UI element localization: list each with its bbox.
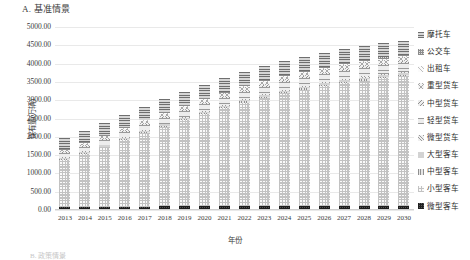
bar-segment bbox=[119, 140, 130, 206]
legend-item[interactable]: 小型客车 bbox=[418, 181, 470, 198]
bar-segment bbox=[378, 78, 389, 205]
legend-item[interactable]: 摩托车 bbox=[418, 26, 470, 43]
stacked-bar[interactable] bbox=[159, 99, 170, 209]
bar-column[interactable]: 2017 bbox=[135, 27, 155, 209]
x-axis-tick-label: 2029 bbox=[377, 214, 391, 222]
bar-column[interactable]: 2022 bbox=[234, 27, 254, 209]
y-axis-tick-label: 1500.00 bbox=[27, 151, 51, 159]
legend-item[interactable]: 公交车 bbox=[418, 43, 470, 60]
bar-column[interactable]: 2025 bbox=[294, 27, 314, 209]
stacked-bar[interactable] bbox=[99, 123, 110, 209]
bar-segment bbox=[279, 206, 290, 209]
legend-label: 中型货车 bbox=[427, 100, 459, 108]
bar-column[interactable]: 2026 bbox=[314, 27, 334, 209]
bar-segment bbox=[79, 154, 90, 207]
stacked-bar[interactable] bbox=[119, 115, 130, 209]
bar-segment bbox=[199, 206, 210, 209]
stacked-bar[interactable] bbox=[299, 57, 310, 209]
bar-column[interactable]: 2029 bbox=[374, 27, 394, 209]
bar-column[interactable]: 2027 bbox=[334, 27, 354, 209]
bar-segment bbox=[259, 87, 270, 95]
bar-segment bbox=[319, 86, 330, 206]
bar-column[interactable]: 2021 bbox=[215, 27, 235, 209]
stacked-bar[interactable] bbox=[339, 49, 350, 209]
legend-label: 摩托车 bbox=[427, 31, 451, 39]
bar-segment bbox=[279, 82, 290, 90]
legend-swatch-icon bbox=[418, 66, 424, 72]
bar-segment bbox=[219, 206, 230, 209]
stacked-bar[interactable] bbox=[359, 46, 370, 209]
bar-segment bbox=[259, 98, 270, 206]
legend-item[interactable]: 轻型货车 bbox=[418, 112, 470, 129]
bar-column[interactable]: 2023 bbox=[254, 27, 274, 209]
legend-item[interactable]: 重型货车 bbox=[418, 78, 470, 95]
legend-swatch-icon bbox=[418, 186, 424, 192]
bar-segment bbox=[319, 74, 330, 82]
stacked-bar[interactable] bbox=[219, 78, 230, 209]
bar-column[interactable]: 2015 bbox=[95, 27, 115, 209]
bar-segment bbox=[139, 107, 150, 120]
bar-segment bbox=[179, 120, 190, 206]
bar-column[interactable]: 2013 bbox=[55, 27, 75, 209]
legend-swatch-icon bbox=[418, 152, 424, 158]
legend-item[interactable]: 中型货车 bbox=[418, 95, 470, 112]
x-axis-tick-label: 2028 bbox=[357, 214, 371, 222]
legend-item[interactable]: 微型货车 bbox=[418, 129, 470, 146]
stacked-bar[interactable] bbox=[378, 43, 389, 209]
x-axis-line bbox=[55, 209, 414, 210]
x-axis-tick-label: 2022 bbox=[237, 214, 251, 222]
bar-column[interactable]: 2019 bbox=[175, 27, 195, 209]
x-axis-tick-label: 2019 bbox=[178, 214, 192, 222]
bar-column[interactable]: 2028 bbox=[354, 27, 374, 209]
y-axis-tick-label: 1000.00 bbox=[27, 170, 51, 178]
legend-item[interactable]: 中型客车 bbox=[418, 164, 470, 181]
stacked-bar[interactable] bbox=[319, 53, 330, 209]
bar-segment bbox=[139, 133, 150, 206]
bar-segment bbox=[239, 206, 250, 209]
bar-segment bbox=[59, 160, 70, 207]
stacked-bar[interactable] bbox=[59, 138, 70, 209]
bar-column[interactable]: 2014 bbox=[75, 27, 95, 209]
stacked-bar[interactable] bbox=[139, 107, 150, 209]
legend-swatch-icon bbox=[418, 203, 424, 209]
bar-segment bbox=[339, 71, 350, 79]
x-axis-tick-label: 2017 bbox=[138, 214, 152, 222]
bar-segment bbox=[99, 147, 110, 206]
x-axis-tick-label: 2024 bbox=[277, 214, 291, 222]
y-axis-tick-label: 0.00 bbox=[38, 206, 51, 214]
bar-column[interactable]: 2024 bbox=[274, 27, 294, 209]
legend-item[interactable]: 大型客车 bbox=[418, 146, 470, 163]
stacked-bar[interactable] bbox=[179, 92, 190, 209]
y-axis-tick-label: 500.00 bbox=[30, 188, 51, 196]
bar-segment bbox=[339, 49, 350, 63]
bar-segment bbox=[239, 103, 250, 207]
legend-swatch-icon bbox=[418, 118, 424, 124]
bar-column[interactable]: 2016 bbox=[115, 27, 135, 209]
x-axis-tick-label: 2023 bbox=[257, 214, 271, 222]
stacked-bar[interactable] bbox=[398, 41, 409, 209]
bar-segment bbox=[239, 72, 250, 86]
legend-item[interactable]: 微型客车 bbox=[418, 198, 470, 215]
bar-column[interactable]: 2020 bbox=[195, 27, 215, 209]
bar-column[interactable]: 2030 bbox=[394, 27, 414, 209]
legend-label: 大型客车 bbox=[427, 151, 459, 159]
legend-swatch-icon bbox=[418, 83, 424, 89]
bar-segment bbox=[398, 41, 409, 55]
stacked-bar[interactable] bbox=[259, 66, 270, 209]
legend-item[interactable]: 出租车 bbox=[418, 60, 470, 77]
page-title: A. 基准情景 bbox=[22, 2, 70, 15]
bar-segment bbox=[99, 207, 110, 209]
bar-segment bbox=[359, 81, 370, 206]
stacked-bar[interactable] bbox=[239, 72, 250, 209]
plot-area: 2013201420152016201720182019202020212022… bbox=[55, 27, 414, 210]
bar-segment bbox=[79, 207, 90, 209]
x-axis-tick-label: 2016 bbox=[118, 214, 132, 222]
x-axis-tick-label: 2015 bbox=[98, 214, 112, 222]
bar-segment bbox=[219, 108, 230, 206]
stacked-bar[interactable] bbox=[79, 131, 90, 209]
stacked-bar[interactable] bbox=[199, 85, 210, 209]
bar-column[interactable]: 2018 bbox=[155, 27, 175, 209]
stacked-bar[interactable] bbox=[279, 61, 290, 209]
bar-segment bbox=[259, 66, 270, 80]
bar-segment bbox=[179, 92, 190, 105]
